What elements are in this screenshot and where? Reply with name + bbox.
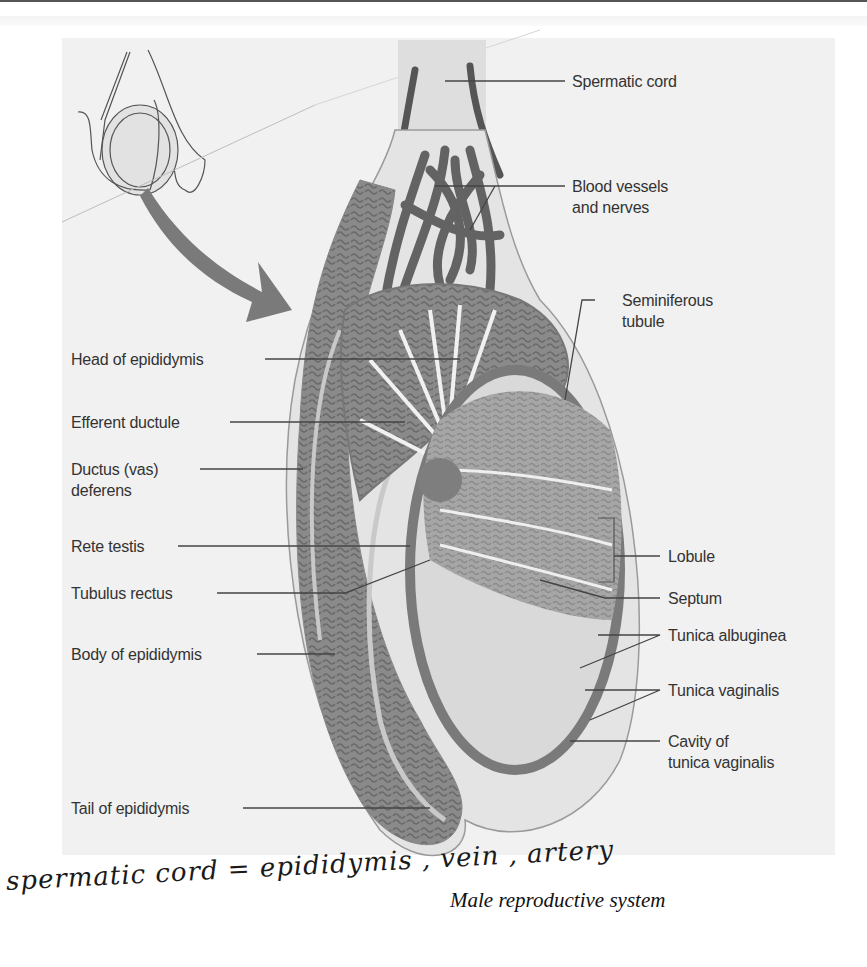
label-seminiferous-tubule-line2: tubule [622,312,664,332]
inset-plane-line [62,105,315,222]
label-tunica-vaginalis: Tunica vaginalis [668,681,779,701]
label-tail-of-epididymis: Tail of epididymis [71,799,189,819]
label-lobule: Lobule [668,547,715,567]
label-efferent-ductule: Efferent ductule [71,413,180,433]
label-blood-vessels-line1: Blood vessels [572,177,668,197]
label-ductus-deferens-line2: deferens [71,481,132,501]
label-rete-testis: Rete testis [71,537,144,557]
label-body-of-epididymis: Body of epididymis [71,645,202,665]
curved-arrow-icon [140,188,292,322]
label-cavity-line1: Cavity of [668,732,728,752]
label-tunica-albuginea: Tunica albuginea [668,626,786,646]
label-head-of-epididymis: Head of epididymis [71,350,203,370]
inset-location-sketch [78,50,205,195]
label-blood-vessels-line2: and nerves [572,198,649,218]
label-septum: Septum [668,589,722,609]
figure-caption: Male reproductive system [450,888,665,913]
label-ductus-deferens-line1: Ductus (vas) [71,460,158,480]
label-spermatic-cord: Spermatic cord [572,72,677,92]
label-seminiferous-tubule-line1: Seminiferous [622,291,713,311]
label-tubulus-rectus: Tubulus rectus [71,584,173,604]
label-cavity-line2: tunica vaginalis [668,753,774,773]
